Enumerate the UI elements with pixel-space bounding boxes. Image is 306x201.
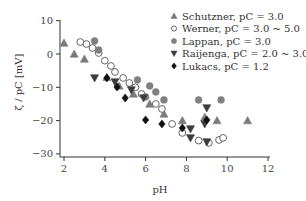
legend: Schutzner, pC = 3.0Werner, pC = 3.0 ~ 5.… bbox=[171, 11, 306, 72]
y-tick-label: −30 bbox=[32, 148, 53, 159]
triangle-up-marker bbox=[244, 117, 252, 124]
legend-label: Lukacs, pC = 1.2 bbox=[182, 61, 269, 72]
triangle-up-icon bbox=[171, 13, 177, 18]
circle-marker bbox=[220, 135, 227, 142]
circle-marker bbox=[108, 63, 115, 70]
circle-marker bbox=[101, 57, 108, 64]
diamond-marker bbox=[159, 120, 165, 128]
circle-marker bbox=[169, 121, 176, 128]
legend-item: Lappan, pC = 3.0 bbox=[171, 36, 270, 47]
circle-marker bbox=[159, 106, 166, 113]
circle-marker bbox=[146, 83, 153, 90]
x-tick-label: 4 bbox=[102, 163, 108, 174]
diamond-marker bbox=[122, 94, 128, 102]
scatter-chart: 100−10−20−3024681012 Schutzner, pC = 3.0… bbox=[0, 0, 306, 201]
circle-marker bbox=[161, 97, 168, 104]
y-tick-label: 10 bbox=[40, 15, 53, 26]
circle-marker bbox=[83, 41, 90, 48]
circle-marker bbox=[134, 77, 141, 84]
triangle-up-marker bbox=[80, 55, 88, 62]
diamond-marker bbox=[142, 116, 148, 124]
x-tick-label: 8 bbox=[183, 163, 189, 174]
circle-marker bbox=[120, 75, 127, 82]
circle-marker bbox=[152, 101, 159, 108]
y-axis-label: ζ / pC [mV] bbox=[13, 53, 24, 110]
x-tick-label: 2 bbox=[61, 163, 67, 174]
legend-item: Raijenga, pC = 2.0 ~ 3.0 bbox=[171, 48, 306, 59]
y-tick-label: −20 bbox=[32, 115, 53, 126]
triangle-down-marker bbox=[186, 126, 194, 133]
legend-item: Werner, pC = 3.0 ~ 5.0 bbox=[171, 23, 299, 34]
x-tick-label: 12 bbox=[262, 163, 275, 174]
circle-marker bbox=[195, 137, 202, 144]
legend-item: Lukacs, pC = 1.2 bbox=[172, 61, 269, 72]
circle-marker bbox=[195, 97, 202, 104]
y-tick-label: 0 bbox=[47, 49, 53, 60]
legend-item: Schutzner, pC = 3.0 bbox=[171, 11, 284, 22]
circle-marker bbox=[126, 80, 133, 87]
circle-marker bbox=[89, 45, 96, 52]
triangle-down-marker bbox=[186, 135, 194, 142]
x-axis-label: pH bbox=[152, 184, 167, 195]
triangle-up-marker bbox=[70, 50, 78, 57]
legend-label: Werner, pC = 3.0 ~ 5.0 bbox=[182, 23, 300, 34]
circle-icon bbox=[171, 38, 176, 43]
triangle-up-marker bbox=[213, 117, 221, 124]
legend-label: Raijenga, pC = 2.0 ~ 3.0 bbox=[182, 48, 306, 59]
circle-marker bbox=[218, 97, 225, 104]
x-tick-label: 10 bbox=[221, 163, 234, 174]
triangle-up-marker bbox=[178, 117, 186, 124]
circle-marker bbox=[152, 89, 159, 96]
circle-marker bbox=[112, 69, 119, 76]
circle-marker bbox=[95, 47, 102, 54]
legend-label: Schutzner, pC = 3.0 bbox=[182, 11, 284, 22]
circle-icon bbox=[171, 26, 176, 31]
triangle-down-icon bbox=[171, 51, 177, 56]
legend-label: Lappan, pC = 3.0 bbox=[182, 36, 271, 47]
y-tick-label: −10 bbox=[32, 82, 53, 93]
triangle-up-marker bbox=[60, 39, 68, 46]
x-tick-label: 6 bbox=[142, 163, 148, 174]
circle-marker bbox=[91, 38, 98, 45]
diamond-icon bbox=[172, 63, 177, 69]
triangle-down-marker bbox=[203, 105, 211, 112]
triangle-down-marker bbox=[91, 75, 99, 82]
